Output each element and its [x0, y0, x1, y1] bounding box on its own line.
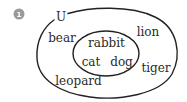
question-number: 1: [17, 11, 22, 19]
venn-diagram: 1 U bear lion rabbit cat dog tiger leopa…: [0, 0, 187, 102]
element-cat: cat: [82, 55, 101, 69]
venn-diagram-figure: 1 U bear lion rabbit cat dog tiger leopa…: [0, 0, 187, 102]
element-tiger: tiger: [141, 61, 170, 75]
element-dog: dog: [110, 55, 133, 69]
universal-set-label: U: [56, 10, 66, 24]
element-lion: lion: [137, 25, 160, 39]
question-number-badge: 1: [14, 9, 25, 20]
element-rabbit: rabbit: [88, 36, 125, 50]
element-leopard: leopard: [55, 74, 102, 88]
element-bear: bear: [48, 31, 76, 45]
